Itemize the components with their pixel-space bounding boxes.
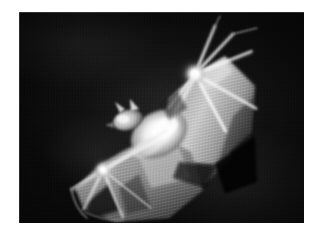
photo-canvas xyxy=(19,12,304,223)
bat-photograph xyxy=(19,12,304,223)
bat-figure xyxy=(19,12,304,223)
page-root: Grayscale photograph of a bat with outst… xyxy=(0,0,323,239)
